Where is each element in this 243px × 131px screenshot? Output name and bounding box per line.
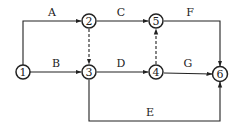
- activity-label-E: E: [146, 106, 154, 119]
- node-label-1: 1: [20, 66, 27, 79]
- activity-label-D: D: [117, 57, 126, 70]
- node-1: 1: [16, 65, 30, 79]
- node-5: 5: [149, 14, 163, 28]
- activity-label-B: B: [52, 57, 60, 70]
- node-label-4: 4: [153, 66, 160, 79]
- node-label-2: 2: [86, 15, 93, 28]
- activity-E-arrow: [89, 80, 220, 121]
- activity-G-arrow: [164, 73, 212, 74]
- activity-label-F: F: [186, 6, 194, 19]
- node-3: 3: [82, 65, 96, 79]
- node-label-3: 3: [86, 66, 93, 79]
- activity-label-G: G: [184, 57, 193, 70]
- activity-label-A: A: [47, 6, 57, 19]
- node-4: 4: [149, 65, 163, 79]
- node-2: 2: [82, 14, 96, 28]
- activity-label-C: C: [117, 6, 125, 19]
- node-6: 6: [213, 67, 228, 82]
- node-label-5: 5: [153, 15, 160, 28]
- node-label-6: 6: [217, 68, 224, 81]
- network-diagram: A B C D E F G 1 2 3 4 5 6: [0, 0, 243, 131]
